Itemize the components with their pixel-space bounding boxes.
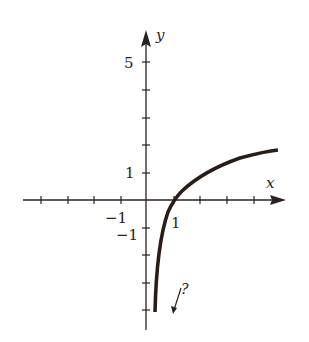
y-tick-label-neg1: −1 bbox=[116, 226, 138, 244]
y-axis bbox=[141, 30, 151, 330]
x-tick-label-1: 1 bbox=[171, 214, 181, 232]
graph: y x 5 1 −1 −1 1 ? bbox=[0, 0, 309, 342]
x-axis bbox=[23, 195, 286, 205]
arrow-down-icon bbox=[171, 306, 177, 314]
y-tick-label-1: 1 bbox=[125, 164, 135, 182]
y-axis-label: y bbox=[155, 26, 165, 44]
x-tick-label-neg1: −1 bbox=[105, 209, 127, 227]
question-mark: ? bbox=[181, 281, 189, 297]
y-tick-label-5: 5 bbox=[124, 54, 134, 72]
x-axis-label: x bbox=[266, 174, 275, 192]
x-axis-arrow-icon bbox=[270, 195, 286, 205]
question-arrow bbox=[171, 288, 181, 314]
